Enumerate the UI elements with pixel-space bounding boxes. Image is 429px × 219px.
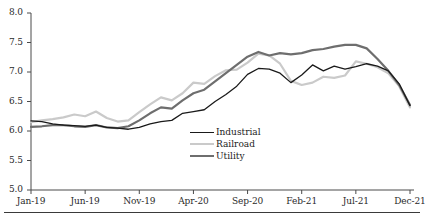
legend-label-utility: Utility	[216, 150, 245, 162]
x-tick-label: Apr-20	[163, 196, 223, 206]
legend-swatch-railroad	[190, 143, 214, 145]
x-tick-label: Sep-20	[218, 196, 278, 206]
legend-label-railroad: Railroad	[216, 138, 255, 150]
y-tick-label: 7.5	[0, 37, 23, 47]
x-tick-label: Jul-21	[326, 196, 386, 206]
y-tick-label: 5.5	[0, 155, 23, 165]
x-tick-label: Nov-19	[109, 196, 169, 206]
chart-series-group	[31, 45, 410, 129]
x-tick-label: Feb-21	[272, 196, 332, 206]
legend-item-utility: Utility	[190, 150, 261, 162]
legend-swatch-utility	[190, 155, 214, 157]
legend-label-industrial: Industrial	[216, 126, 261, 138]
legend-item-industrial: Industrial	[190, 126, 261, 138]
legend-item-railroad: Railroad	[190, 138, 261, 150]
x-tick-label: Dec-21	[380, 196, 429, 206]
x-axis-ticks	[31, 190, 410, 194]
y-tick-label: 5.0	[0, 184, 23, 194]
chart-legend: Industrial Railroad Utility	[190, 126, 261, 162]
series-line-railroad	[31, 54, 410, 122]
chart-axes	[27, 13, 414, 194]
x-tick-label: Jan-19	[1, 196, 61, 206]
legend-swatch-industrial	[190, 132, 214, 133]
bottom-divider	[4, 212, 420, 213]
y-tick-label: 6.0	[0, 125, 23, 135]
y-tick-label: 7.0	[0, 66, 23, 76]
y-axis-ticks	[27, 13, 31, 190]
y-tick-label: 6.5	[0, 96, 23, 106]
x-tick-label: Jun-19	[55, 196, 115, 206]
y-tick-label: 8.0	[0, 7, 23, 17]
